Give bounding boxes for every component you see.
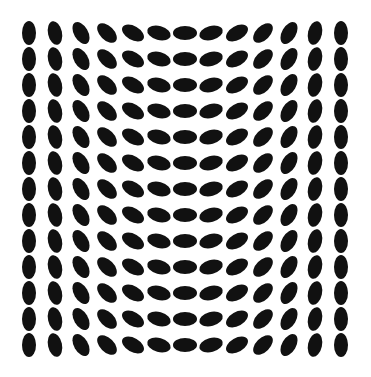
ellipse-dot bbox=[197, 309, 224, 329]
ellipse-dot bbox=[276, 227, 300, 255]
ellipse-dot bbox=[173, 234, 197, 248]
ellipse-dot bbox=[223, 99, 251, 123]
ellipse-dot bbox=[334, 177, 348, 201]
ellipse-dot bbox=[22, 151, 36, 175]
ellipse-dot bbox=[145, 309, 172, 329]
ellipse-dot bbox=[45, 280, 64, 306]
ellipse-dot bbox=[223, 177, 251, 201]
ellipse-dot bbox=[119, 47, 147, 71]
ellipse-dot bbox=[68, 19, 92, 47]
ellipse-dot bbox=[22, 99, 36, 123]
ellipse-dot bbox=[93, 228, 120, 255]
ellipse-dot bbox=[173, 338, 197, 352]
ellipse-dot bbox=[334, 229, 348, 253]
ellipse-dot bbox=[249, 176, 276, 203]
ellipse-dot bbox=[45, 228, 64, 254]
ellipse-dot bbox=[145, 75, 172, 95]
ellipse-dot bbox=[276, 331, 300, 359]
ellipse-dot bbox=[45, 306, 64, 332]
ellipse-dot bbox=[334, 151, 348, 175]
ellipse-dot bbox=[223, 125, 251, 149]
ellipse-dot bbox=[197, 75, 224, 95]
ellipse-dot bbox=[119, 333, 147, 357]
ellipse-dot bbox=[249, 254, 276, 281]
ellipse-dot bbox=[197, 101, 224, 121]
ellipse-dot bbox=[276, 253, 300, 281]
ellipse-dot bbox=[22, 47, 36, 71]
ellipse-dot bbox=[305, 46, 324, 72]
ellipse-dot bbox=[145, 49, 172, 69]
ellipse-dot bbox=[305, 98, 324, 124]
ellipse-dot bbox=[305, 254, 324, 280]
ellipse-dot bbox=[223, 307, 251, 331]
ellipse-dot bbox=[173, 286, 197, 300]
ellipse-dot bbox=[45, 254, 64, 280]
ellipse-dot bbox=[249, 150, 276, 177]
ellipse-dot bbox=[223, 21, 251, 45]
ellipse-dot bbox=[173, 156, 197, 170]
ellipse-dot bbox=[93, 98, 120, 125]
ellipse-dot bbox=[145, 231, 172, 251]
ellipse-dot bbox=[45, 98, 64, 124]
ellipse-dot bbox=[305, 280, 324, 306]
ellipse-dot bbox=[93, 20, 120, 47]
ellipse-dot bbox=[119, 307, 147, 331]
ellipse-dot bbox=[249, 202, 276, 229]
ellipse-dot bbox=[68, 227, 92, 255]
ellipse-dot bbox=[119, 203, 147, 227]
ellipse-dot bbox=[334, 281, 348, 305]
ellipse-dot bbox=[145, 335, 172, 355]
ellipse-dot bbox=[334, 73, 348, 97]
ellipse-dot bbox=[276, 305, 300, 333]
ellipse-dot bbox=[334, 47, 348, 71]
ellipse-dot bbox=[22, 177, 36, 201]
ellipse-dot bbox=[197, 23, 224, 43]
ellipse-dot bbox=[45, 332, 64, 358]
ellipse-dot bbox=[334, 307, 348, 331]
ellipse-dot bbox=[45, 20, 64, 46]
ellipse-dot bbox=[119, 21, 147, 45]
ellipse-dot bbox=[305, 176, 324, 202]
ellipse-dot bbox=[93, 332, 120, 359]
ellipse-dot bbox=[223, 255, 251, 279]
ellipse-dot bbox=[305, 150, 324, 176]
ellipse-dot bbox=[68, 45, 92, 73]
ellipse-dot bbox=[119, 255, 147, 279]
ellipse-dot bbox=[276, 123, 300, 151]
ellipse-dot bbox=[68, 149, 92, 177]
ellipse-dot bbox=[22, 125, 36, 149]
ellipse-dot bbox=[22, 333, 36, 357]
ellipse-dot bbox=[93, 280, 120, 307]
ellipse-dot bbox=[276, 175, 300, 203]
ellipse-dot bbox=[334, 99, 348, 123]
ellipse-dot bbox=[249, 20, 276, 47]
ellipse-dot bbox=[119, 125, 147, 149]
ellipse-dot bbox=[249, 46, 276, 73]
ellipse-dot bbox=[173, 104, 197, 118]
ellipse-dot bbox=[68, 331, 92, 359]
ellipse-dot bbox=[119, 99, 147, 123]
ellipse-dot bbox=[249, 228, 276, 255]
ellipse-dot bbox=[93, 306, 120, 333]
ellipse-dot bbox=[68, 123, 92, 151]
ellipse-dot bbox=[276, 19, 300, 47]
ellipse-dot bbox=[68, 97, 92, 125]
ellipse-dot bbox=[22, 307, 36, 331]
ellipse-dot bbox=[197, 231, 224, 251]
ellipse-dot bbox=[173, 312, 197, 326]
ellipse-dot bbox=[249, 306, 276, 333]
ellipse-dot bbox=[197, 335, 224, 355]
ellipse-dot bbox=[22, 21, 36, 45]
ellipse-dot bbox=[173, 52, 197, 66]
ellipse-dot bbox=[68, 175, 92, 203]
ellipse-dot bbox=[45, 72, 64, 98]
ellipse-dot bbox=[119, 229, 147, 253]
ellipse-dot bbox=[173, 260, 197, 274]
ellipse-dot bbox=[249, 98, 276, 125]
ellipse-dot bbox=[119, 73, 147, 97]
ellipse-dot bbox=[223, 47, 251, 71]
ellipse-dot bbox=[305, 306, 324, 332]
ellipse-dot bbox=[305, 72, 324, 98]
ellipse-dot bbox=[276, 201, 300, 229]
ellipse-dot bbox=[197, 153, 224, 173]
